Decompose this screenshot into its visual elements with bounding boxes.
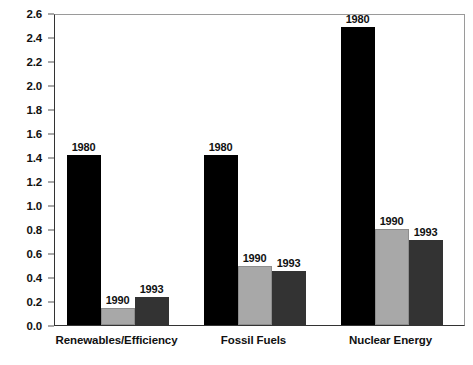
- bar-value-label: 1980: [346, 13, 370, 25]
- bar-column: 1990: [238, 13, 272, 325]
- bar-group: 198019901993: [192, 15, 329, 325]
- bar-value-label: 1993: [140, 283, 164, 295]
- y-axis-tick-label: 0.6: [27, 248, 42, 260]
- bar-value-label: 1990: [380, 215, 404, 227]
- bar-column: 1993: [272, 13, 306, 325]
- bar-group: 198019901993: [329, 15, 466, 325]
- y-axis-tick-label: 0.0: [27, 320, 42, 332]
- bar-1993[interactable]: [272, 271, 306, 325]
- bar-value-label: 1990: [243, 252, 267, 264]
- bar-column: 1993: [409, 13, 443, 325]
- y-axis-tick-label: 2.4: [27, 32, 42, 44]
- y-axis-tick-label: 1.6: [27, 128, 42, 140]
- bar-column: 1980: [341, 13, 375, 325]
- y-axis-tick-label: 1.2: [27, 176, 42, 188]
- plot-inner: 198019901993198019901993198019901993: [55, 15, 464, 325]
- bar-chart: 0.00.20.40.60.81.01.21.41.61.82.02.22.42…: [0, 0, 473, 365]
- bar-column: 1980: [204, 13, 238, 325]
- bar-1990[interactable]: [101, 308, 135, 325]
- bar-value-label: 1990: [106, 294, 130, 306]
- x-axis-category-label: Fossil Fuels: [221, 334, 286, 346]
- x-axis-category-label: Nuclear Energy: [349, 334, 432, 346]
- bar-1980[interactable]: [204, 155, 238, 325]
- y-axis-tick-label: 2.0: [27, 80, 42, 92]
- y-axis: 0.00.20.40.60.81.01.21.41.61.82.02.22.42…: [0, 0, 54, 365]
- bar-group: 198019901993: [55, 15, 192, 325]
- y-axis-tick-label: 1.0: [27, 200, 42, 212]
- bar-value-label: 1980: [72, 141, 96, 153]
- bar-1980[interactable]: [67, 155, 101, 325]
- bar-1993[interactable]: [409, 240, 443, 325]
- bar-column: 1990: [101, 13, 135, 325]
- bar-1990[interactable]: [375, 229, 409, 325]
- y-axis-tick-label: 2.6: [27, 8, 42, 20]
- y-axis-tick-label: 0.2: [27, 296, 42, 308]
- bar-1993[interactable]: [135, 297, 169, 325]
- bar-1980[interactable]: [341, 27, 375, 325]
- bar-value-label: 1993: [277, 257, 301, 269]
- bar-1990[interactable]: [238, 266, 272, 325]
- y-axis-tick-label: 0.8: [27, 224, 42, 236]
- bar-value-label: 1993: [414, 226, 438, 238]
- bar-column: 1990: [375, 13, 409, 325]
- bar-column: 1993: [135, 13, 169, 325]
- bar-value-label: 1980: [209, 141, 233, 153]
- y-axis-tick-label: 0.4: [27, 272, 42, 284]
- x-axis-category-label: Renewables/Efficiency: [56, 334, 178, 346]
- y-axis-tick-label: 1.8: [27, 104, 42, 116]
- bar-column: 1980: [67, 13, 101, 325]
- y-axis-tick-label: 1.4: [27, 152, 42, 164]
- y-axis-tick-label: 2.2: [27, 56, 42, 68]
- plot-area: 198019901993198019901993198019901993: [54, 14, 465, 326]
